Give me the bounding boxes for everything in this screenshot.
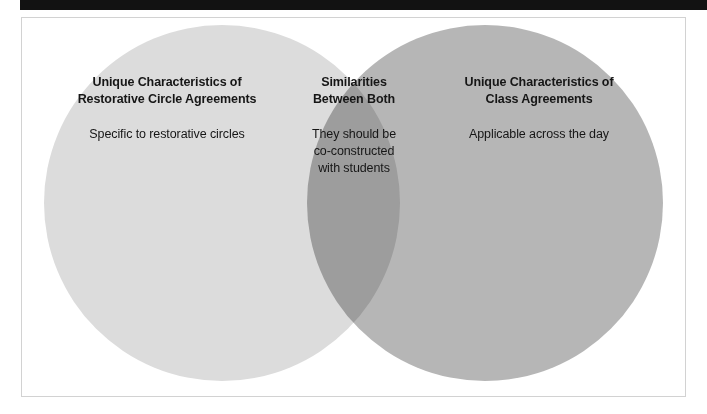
venn-overlap-body-line-2: co-constructed — [299, 143, 409, 160]
venn-overlap-spacer — [299, 108, 409, 126]
venn-diagram-stage: Unique Characteristics of Restorative Ci… — [22, 18, 685, 396]
venn-overlap-body-line-1: They should be — [299, 126, 409, 143]
venn-right-spacer — [420, 108, 658, 126]
venn-left-heading-line-1: Unique Characteristics of — [48, 74, 286, 91]
venn-left-body-line-1: Specific to restorative circles — [48, 126, 286, 143]
venn-label-overlap: Similarities Between Both They should be… — [299, 74, 409, 177]
venn-label-left: Unique Characteristics of Restorative Ci… — [48, 74, 286, 143]
venn-left-heading-line-2: Restorative Circle Agreements — [48, 91, 286, 108]
venn-overlap-heading-line-1: Similarities — [299, 74, 409, 91]
venn-right-heading-line-2: Class Agreements — [420, 91, 658, 108]
page-root: Unique Characteristics of Restorative Ci… — [0, 0, 707, 414]
venn-diagram-frame: Unique Characteristics of Restorative Ci… — [21, 17, 686, 397]
venn-right-heading-line-1: Unique Characteristics of — [420, 74, 658, 91]
top-black-bar — [20, 0, 707, 10]
venn-right-body-line-1: Applicable across the day — [420, 126, 658, 143]
venn-overlap-heading-line-2: Between Both — [299, 91, 409, 108]
venn-label-right: Unique Characteristics of Class Agreemen… — [420, 74, 658, 143]
venn-overlap-body-line-3: with students — [299, 160, 409, 177]
venn-left-spacer — [48, 108, 286, 126]
